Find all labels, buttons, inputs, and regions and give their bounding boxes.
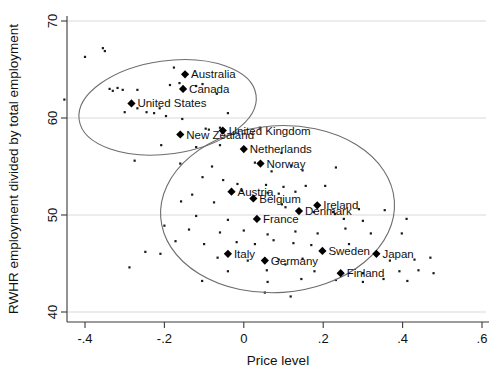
background-point: [122, 89, 124, 91]
background-point: [335, 166, 337, 168]
background-point: [195, 146, 197, 148]
background-point: [104, 50, 106, 52]
background-point: [429, 257, 431, 259]
diamond-marker: [253, 215, 261, 223]
background-point: [145, 111, 147, 113]
x-tick-group: -.4-.20.2.4.6: [77, 322, 487, 346]
point-label: United States: [137, 97, 206, 109]
background-point: [213, 201, 215, 203]
point-label: United Kingdom: [229, 125, 311, 137]
background-point: [236, 241, 238, 243]
background-point: [317, 232, 319, 234]
background-point: [267, 233, 269, 235]
background-point: [174, 240, 176, 242]
background-point: [134, 160, 136, 162]
background-point: [84, 56, 86, 58]
point-label: Norway: [267, 158, 306, 170]
background-point: [362, 281, 364, 283]
background-point: [300, 278, 302, 280]
x-ticklabel-0: 0: [240, 331, 247, 346]
background-point: [310, 244, 312, 246]
background-point: [294, 230, 296, 232]
x-ticklabel--.2: -.2: [157, 331, 172, 346]
point-label: Italy: [234, 248, 255, 260]
diamond-marker: [372, 250, 380, 258]
diamond-marker: [261, 256, 269, 264]
background-point: [398, 270, 400, 272]
y-tick-group: 40506070: [45, 14, 67, 319]
diamond-marker: [181, 70, 189, 78]
background-point: [432, 272, 434, 274]
background-points-group: [63, 47, 434, 298]
labeled-point: Sweden: [318, 245, 370, 257]
point-label: Australia: [191, 68, 236, 80]
background-point: [406, 280, 408, 282]
background-point: [389, 259, 391, 261]
point-label: Netherlands: [250, 143, 312, 155]
labeled-point: United States: [127, 97, 206, 109]
background-point: [227, 219, 229, 221]
background-point: [102, 47, 104, 49]
diamond-marker: [227, 188, 235, 196]
diamond-marker: [179, 85, 187, 93]
background-point: [191, 194, 193, 196]
background-point: [254, 243, 256, 245]
labeled-point: Australia: [181, 68, 236, 80]
point-label: France: [263, 213, 299, 225]
background-point: [222, 179, 224, 181]
background-point: [227, 112, 229, 114]
background-point: [178, 82, 180, 84]
background-point: [181, 118, 183, 120]
background-point: [270, 170, 272, 172]
labeled-point: Norway: [256, 158, 305, 170]
labeled-point: Finland: [337, 267, 385, 279]
background-point: [163, 225, 165, 227]
labeled-point: Japan: [372, 248, 413, 260]
diamond-marker: [240, 145, 248, 153]
point-label: Sweden: [328, 245, 370, 257]
background-point: [136, 89, 138, 91]
background-point: [211, 165, 213, 167]
x-ticklabel--.4: -.4: [77, 331, 92, 346]
point-label: Denmark: [305, 205, 352, 217]
diamond-marker: [224, 250, 232, 258]
background-point: [324, 185, 326, 187]
background-point: [267, 281, 269, 283]
background-point: [180, 200, 182, 202]
background-point: [343, 218, 345, 220]
chart-canvas: -.4-.20.2.4.6 40506070 AustraliaCanadaUn…: [0, 0, 495, 373]
background-point: [227, 270, 229, 272]
x-ticklabel-.2: .2: [318, 331, 329, 346]
background-point: [173, 66, 175, 68]
background-point: [201, 280, 203, 282]
background-point: [313, 270, 315, 272]
y-ticklabel-50: 50: [45, 208, 60, 222]
diamond-marker: [176, 130, 184, 138]
scatter-plot-figure: -.4-.20.2.4.6 40506070 AustraliaCanadaUn…: [0, 0, 495, 373]
background-point: [63, 98, 65, 100]
background-point: [188, 228, 190, 230]
x-ticklabel-.6: .6: [477, 331, 488, 346]
background-point: [401, 232, 403, 234]
background-point: [292, 242, 294, 244]
diamond-marker: [256, 159, 264, 167]
y-ticklabel-40: 40: [45, 305, 60, 319]
background-point: [247, 259, 249, 261]
y-axis-title: RWHR employment divided by total employm…: [6, 24, 21, 314]
background-point: [195, 215, 197, 217]
cluster-ellipses-group: [73, 49, 401, 301]
background-point: [124, 111, 126, 113]
labeled-point: Germany: [261, 255, 319, 267]
background-point: [282, 186, 284, 188]
background-point: [344, 227, 346, 229]
background-point: [109, 88, 111, 90]
background-point: [305, 185, 307, 187]
point-label: Germany: [271, 255, 319, 267]
x-axis-title: Price level: [247, 353, 309, 368]
labeled-points-group: AustraliaCanadaUnited StatesNew ZealandU…: [127, 68, 413, 279]
background-point: [417, 269, 419, 271]
point-label: Finland: [347, 267, 385, 279]
labeled-point: Netherlands: [240, 143, 312, 155]
background-point: [290, 295, 292, 297]
labeled-point: Italy: [224, 248, 255, 260]
